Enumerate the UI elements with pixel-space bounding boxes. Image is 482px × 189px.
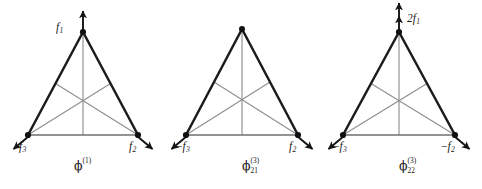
normal-mode-figure: f1 f3 f2 ϕ(1) (0, 0, 482, 189)
apex-label-3: 2f1 (407, 13, 420, 25)
arrow-right-2 (297, 136, 313, 149)
median-lines-1 (28, 32, 138, 135)
apex-label-1: f1 (56, 22, 63, 34)
diagram-panel-2: −f3 f2 ϕ(3)21 (160, 0, 321, 189)
left-vertex-label-2: −f3 (176, 141, 190, 153)
median-lines-2 (186, 29, 298, 135)
triangle-graphic-3 (321, 0, 482, 160)
triangle-graphic-1 (0, 0, 160, 160)
left-vertex-label-1: f3 (19, 141, 26, 153)
caption-2: ϕ(3)21 (242, 160, 260, 173)
arrow-right-1 (137, 136, 153, 149)
median-lines-3 (343, 32, 455, 135)
arrow-right-3 (454, 136, 470, 149)
caption-1: ϕ(1) (74, 160, 92, 173)
triangle-graphic-2 (160, 0, 321, 160)
diagram-panel-3: 2f1 −f3 −f2 ϕ(3)22 (321, 0, 482, 189)
right-vertex-label-2: f2 (289, 141, 296, 153)
caption-3: ϕ(3)22 (399, 160, 417, 173)
diagram-panel-1: f1 f3 f2 ϕ(1) (0, 0, 160, 189)
right-vertex-label-1: f2 (129, 141, 136, 153)
right-vertex-label-3: −f2 (441, 141, 455, 153)
left-vertex-label-3: −f3 (333, 141, 347, 153)
